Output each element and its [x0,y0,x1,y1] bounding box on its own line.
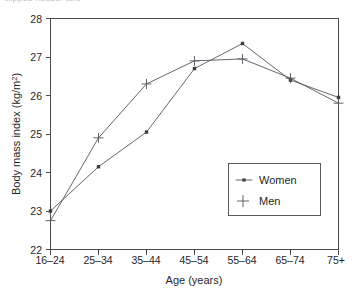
legend-label-men: Men [259,195,280,207]
y-axis-title-close: ) [10,73,22,77]
legend-box [229,164,321,216]
x-tick-label: 35–44 [131,254,160,266]
chart-legend[interactable]: Women Men [229,164,321,216]
chart-figure: clipped header text 22 23 24 25 26 27 28 [0,0,357,295]
bmi-line-chart: 22 23 24 25 26 27 28 Body mass index (kg… [0,0,357,295]
svg-text:Body mass index (kg/m2): Body mass index (kg/m2) [10,73,23,195]
y-tick-label: 23 [30,205,42,217]
y-axis-ticks [46,19,51,250]
y-axis-title-text: Body mass index (kg/m [10,81,22,195]
legend-women-dot-marker [242,178,245,181]
x-tick-label: 45–54 [179,254,208,266]
x-tick-label: 16–24 [35,254,64,266]
x-tick-label: 65–74 [275,254,304,266]
y-tick-label: 28 [30,13,42,25]
y-tick-label: 25 [30,128,42,140]
legend-label-women: Women [259,174,297,186]
y-tick-label: 26 [30,90,42,102]
y-axis-tick-labels: 22 23 24 25 26 27 28 [30,13,42,256]
x-axis-title: Age (years) [166,274,223,286]
data-point-marker [145,130,148,133]
data-point-marker [49,209,52,212]
x-axis-tick-labels: 16–24 25–34 35–44 45–54 55–64 65–74 75+ [35,254,345,266]
x-tick-label: 75+ [327,254,345,266]
data-point-marker [193,67,196,70]
y-axis-title: Body mass index (kg/m2) [10,73,23,195]
y-tick-label: 24 [30,167,42,179]
data-point-marker [97,165,100,168]
x-tick-label: 55–64 [227,254,256,266]
x-tick-label: 25–34 [83,254,112,266]
y-tick-label: 27 [30,51,42,63]
data-point-marker [241,42,244,45]
